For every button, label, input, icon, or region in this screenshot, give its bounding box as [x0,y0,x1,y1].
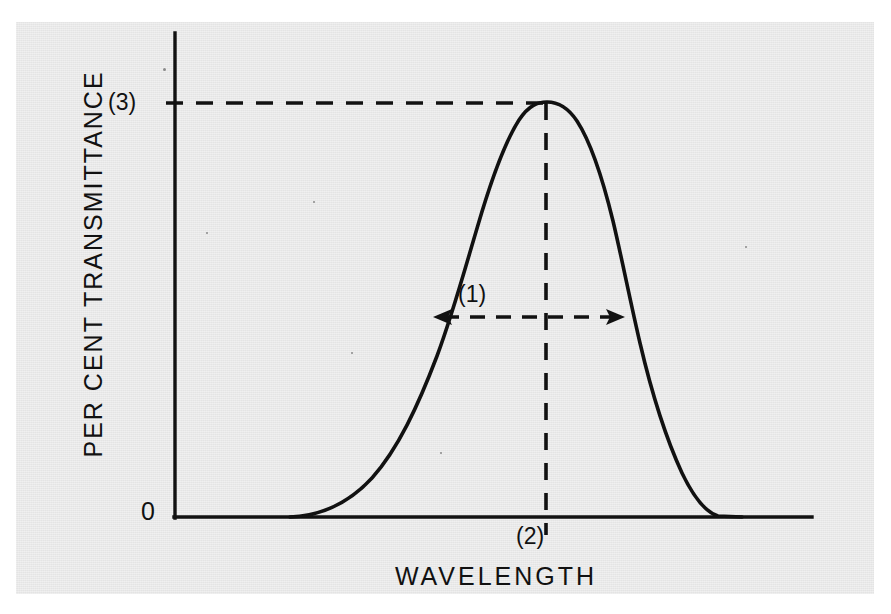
transmittance-curve [290,102,742,517]
callout-peak-transmittance-label: (3) [108,89,136,116]
callout-bandwidth-label: (1) [458,281,486,308]
callout-peak-wavelength-label: (2) [516,523,544,550]
y-axis-title: PER CENT TRANSMITTANCE [79,128,108,458]
origin-tick-label: 0 [141,497,155,526]
x-axis-title: WAVELENGTH [176,562,816,591]
figure-container: PER CENT TRANSMITTANCE WAVELENGTH 0 (3) … [0,0,891,614]
